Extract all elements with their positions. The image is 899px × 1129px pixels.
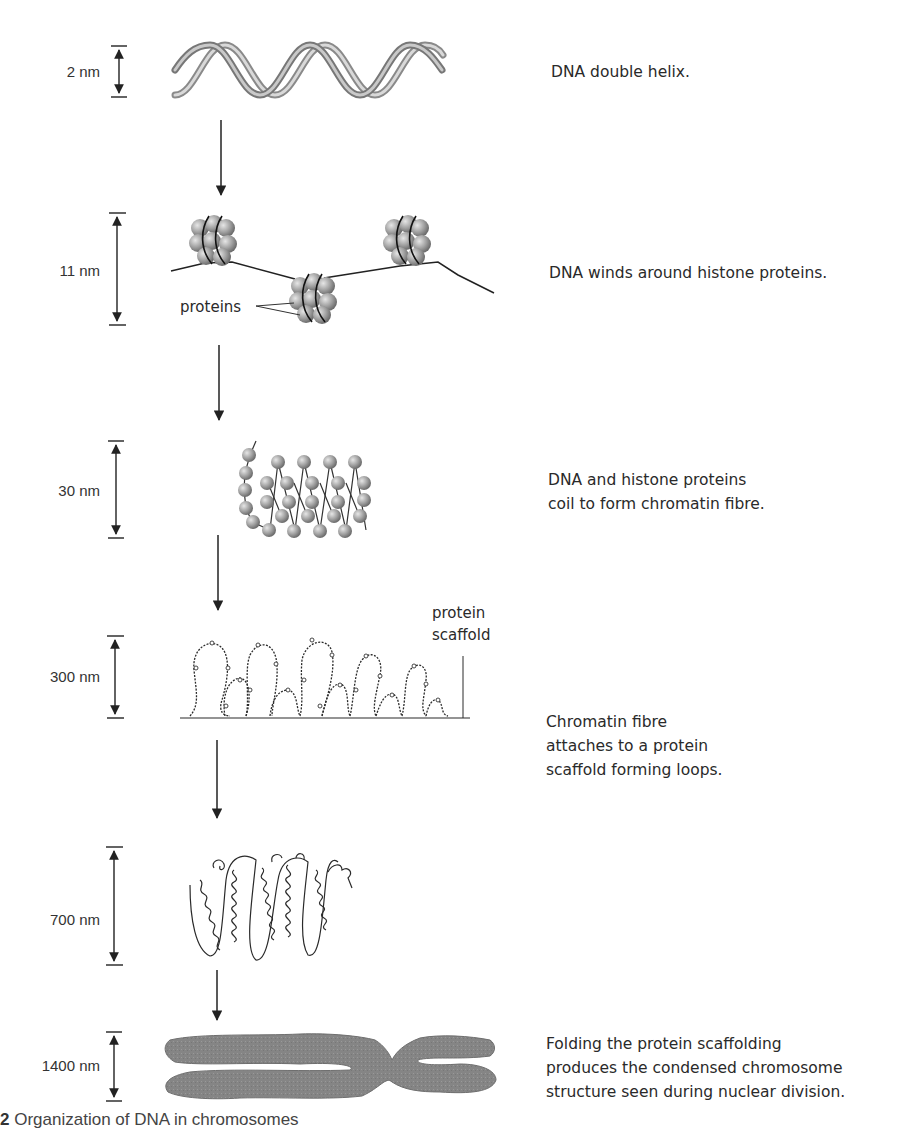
scaffold-loops-illustration <box>180 638 470 718</box>
description-line: coil to form chromatin fibre. <box>548 492 765 516</box>
scale-bar-11nm <box>109 213 126 325</box>
description-helix: DNA double helix. <box>551 60 690 84</box>
scale-bar-2nm <box>111 46 127 97</box>
scale-bar-700nm <box>106 847 123 965</box>
histone-cluster <box>289 273 337 324</box>
description-line: produces the condensed chromosome <box>546 1056 845 1080</box>
figure-caption-text: Organization of DNA in chromosomes <box>14 1110 298 1129</box>
description-line: scaffold forming loops. <box>546 758 722 782</box>
scale-bar-300nm <box>107 636 124 718</box>
description-line: DNA double helix. <box>551 60 690 84</box>
description-line: structure seen during nuclear division. <box>546 1080 845 1104</box>
histone-cluster <box>189 215 237 266</box>
description-line: Chromatin fibre <box>546 710 722 734</box>
diagram-graphics <box>0 0 899 1129</box>
protein-scaffold-label-line: scaffold <box>432 624 490 646</box>
protein-scaffold-label-line: protein <box>432 602 490 624</box>
description-chromosome: Folding the protein scaffolding produces… <box>546 1032 845 1104</box>
scale-label-300nm: 300 nm <box>0 668 100 685</box>
histone-cluster <box>383 215 431 266</box>
description-loops: Chromatin fibre attaches to a protein sc… <box>546 710 722 782</box>
chromatin-fibre-illustration <box>238 441 371 538</box>
dna-double-helix-illustration <box>175 45 443 95</box>
scale-bar-1400nm <box>106 1032 122 1101</box>
description-line: DNA and histone proteins <box>548 468 765 492</box>
description-line: attaches to a protein <box>546 734 722 758</box>
description-nucleosome: DNA winds around histone proteins. <box>549 261 827 285</box>
scale-label-2nm: 2 nm <box>0 63 100 80</box>
scale-label-700nm: 700 nm <box>0 911 100 928</box>
protein-scaffold-label: protein scaffold <box>432 602 490 646</box>
figure-caption: 2 Organization of DNA in chromosomes <box>0 1110 299 1129</box>
scale-label-30nm: 30 nm <box>0 482 100 499</box>
coiled-scaffold-illustration <box>190 854 352 960</box>
description-line: Folding the protein scaffolding <box>546 1032 845 1056</box>
scale-label-11nm: 11 nm <box>0 262 100 279</box>
figure-number: 2 <box>0 1110 9 1129</box>
description-line: DNA winds around histone proteins. <box>549 261 827 285</box>
condensed-chromosome-illustration <box>165 1034 496 1099</box>
description-chromatin: DNA and histone proteins coil to form ch… <box>548 468 765 516</box>
proteins-label: proteins <box>180 296 241 318</box>
scale-bar-30nm <box>108 441 124 538</box>
scale-label-1400nm: 1400 nm <box>0 1057 100 1074</box>
